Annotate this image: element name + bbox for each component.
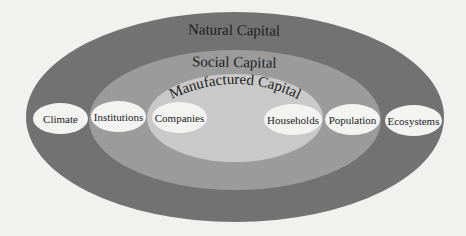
- natural-capital-label: Natural Capital: [188, 21, 280, 40]
- node-population: Population: [325, 104, 380, 135]
- node-ecosystems: Ecosystems: [385, 105, 442, 136]
- node-climate: Climate: [33, 103, 88, 134]
- node-households: Households: [264, 104, 322, 135]
- social-capital-label: Social Capital: [192, 53, 277, 71]
- node-institutions: Institutions: [91, 101, 146, 132]
- node-companies: Companies: [152, 102, 207, 133]
